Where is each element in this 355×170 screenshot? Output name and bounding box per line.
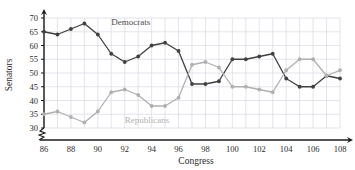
x-tick-label: 88: [67, 144, 76, 154]
data-point: [217, 66, 221, 70]
data-point: [244, 85, 248, 89]
data-point: [257, 55, 261, 59]
data-point: [69, 27, 73, 31]
y-axis-title: Senators: [4, 58, 14, 91]
data-point: [217, 79, 221, 83]
grid-lines: [44, 18, 340, 128]
data-point: [69, 115, 73, 119]
y-tick-label: 40: [30, 96, 39, 106]
data-point: [163, 104, 167, 108]
x-tick-label: 100: [226, 144, 239, 154]
data-point: [56, 33, 60, 37]
x-tick-label: 86: [40, 144, 49, 154]
y-tick-label: 65: [30, 27, 39, 37]
data-point: [204, 60, 208, 64]
data-point: [284, 77, 288, 81]
axis-break-symbol: [39, 128, 45, 140]
data-point: [136, 93, 140, 97]
data-point: [96, 33, 100, 37]
x-tick-label: 94: [147, 144, 156, 154]
y-tick-label: 30: [30, 123, 39, 133]
data-point: [298, 85, 302, 89]
senate-composition-chart: 303540455055606570 868890929496981001021…: [0, 0, 355, 170]
y-tick-label: 60: [30, 41, 39, 51]
data-point: [163, 41, 167, 45]
data-point: [42, 112, 46, 116]
y-tick-label: 55: [30, 54, 39, 64]
x-axis-tick-labels: 86889092949698100102104106108: [40, 144, 347, 154]
y-tick-label: 45: [30, 82, 39, 92]
data-point: [56, 110, 60, 114]
data-point: [123, 88, 127, 92]
y-tick-label: 70: [30, 13, 39, 23]
x-tick-label: 90: [94, 144, 103, 154]
x-tick-label: 108: [334, 144, 347, 154]
y-tick-label: 50: [30, 68, 39, 78]
data-point: [177, 49, 181, 53]
x-tick-label: 98: [201, 144, 210, 154]
data-point: [311, 57, 315, 61]
data-point: [190, 63, 194, 67]
data-point: [244, 57, 248, 61]
data-point: [177, 96, 181, 100]
data-point: [271, 90, 275, 94]
data-point: [190, 82, 194, 86]
series-label-republicans: Republicans: [125, 115, 170, 125]
data-point: [257, 88, 261, 92]
x-tick-label: 106: [307, 144, 320, 154]
data-point: [325, 74, 329, 78]
data-point: [230, 57, 234, 61]
data-point: [136, 55, 140, 59]
x-tick-label: 92: [120, 144, 129, 154]
data-point: [230, 85, 234, 89]
data-point: [82, 22, 86, 26]
data-point: [42, 30, 46, 34]
data-point: [311, 85, 315, 89]
y-axis-tick-labels: 303540455055606570: [30, 13, 45, 133]
data-point: [82, 121, 86, 125]
data-point: [109, 90, 113, 94]
data-point: [150, 44, 154, 48]
data-point: [96, 110, 100, 114]
x-tick-label: 104: [280, 144, 294, 154]
series-label-democrats: Democrats: [111, 17, 150, 27]
data-point: [338, 68, 342, 72]
data-point: [284, 68, 288, 72]
data-point: [271, 52, 275, 56]
x-tick-label: 102: [253, 144, 266, 154]
y-tick-label: 35: [30, 109, 39, 119]
x-axis-title: Congress: [178, 156, 214, 166]
chart-canvas: 303540455055606570 868890929496981001021…: [0, 0, 355, 170]
data-point: [150, 104, 154, 108]
series-annotations: DemocratsRepublicans: [111, 17, 169, 125]
data-point: [338, 77, 342, 81]
data-point: [204, 82, 208, 86]
x-tick-label: 96: [174, 144, 183, 154]
data-point: [298, 57, 302, 61]
data-point: [123, 60, 127, 64]
data-point: [109, 52, 113, 56]
